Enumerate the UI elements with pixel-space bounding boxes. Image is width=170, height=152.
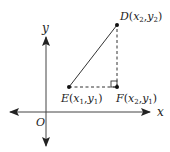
- segment-ED: [69, 25, 117, 87]
- label-D: D(x2,y2): [119, 10, 162, 24]
- origin-label: O: [36, 116, 45, 129]
- point-D: [115, 23, 119, 27]
- point-F: [115, 85, 119, 89]
- label-E: E(x1,y1): [60, 92, 103, 106]
- point-E: [67, 85, 71, 89]
- x-axis-label: x: [157, 105, 164, 119]
- label-F: F(x2,y1): [115, 92, 157, 106]
- coordinate-diagram: x y O D(x2,y2) E(x1,y1) F(x2,y1): [0, 0, 170, 152]
- y-axis-label: y: [41, 21, 49, 35]
